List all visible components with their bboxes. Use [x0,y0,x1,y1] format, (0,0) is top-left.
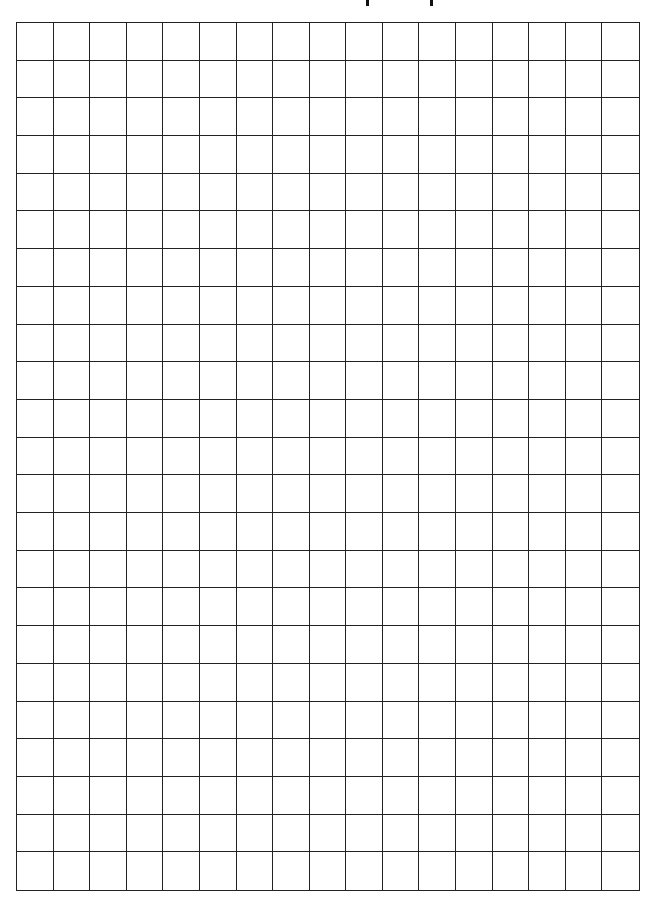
grid-cell [346,702,383,740]
grid-cell [273,287,310,325]
grid-cell [200,588,237,626]
grid-cell [419,513,456,551]
grid-cell [419,287,456,325]
grid-cell [529,777,566,815]
grid-cell [237,475,274,513]
grid-cell [200,702,237,740]
grid-cell [54,136,91,174]
grid-cell [346,852,383,890]
grid-cell [200,61,237,99]
grid-cell [602,287,639,325]
grid-cell [54,702,91,740]
grid-cell [456,400,493,438]
grid-cell [419,626,456,664]
grid-cell [602,136,639,174]
grid-cell [200,438,237,476]
grid-cell [456,438,493,476]
grid-cell [237,249,274,287]
grid-cell [273,211,310,249]
grid-cell [17,626,54,664]
grid-cell [419,815,456,853]
grid-cell [273,174,310,212]
grid-cell [90,777,127,815]
grid-cell [163,174,200,212]
grid-cell [493,136,530,174]
grid-cell [90,438,127,476]
grid-cell [566,513,603,551]
grid-cell [493,551,530,589]
grid-cell [273,551,310,589]
grid-cell [163,551,200,589]
grid-cell [419,174,456,212]
grid-cell [127,588,164,626]
grid-cell [566,400,603,438]
grid-cell [127,61,164,99]
grid-cell [17,98,54,136]
grid-cell [200,249,237,287]
grid-cell [310,852,347,890]
grid-cell [273,98,310,136]
grid-cell [54,287,91,325]
grid-cell [54,815,91,853]
grid-cell [17,325,54,363]
grid-cell [456,475,493,513]
grid-cell [273,815,310,853]
grid-cell [419,325,456,363]
grid-cell [456,588,493,626]
grid-cell [602,438,639,476]
grid-cell [127,815,164,853]
grid-cell [17,588,54,626]
grid-cell [273,475,310,513]
grid-cell [419,739,456,777]
grid-cell [17,23,54,61]
grid-cell [54,174,91,212]
grid-cell [54,362,91,400]
grid-cell [127,325,164,363]
grid-cell [602,400,639,438]
grid-cell [419,551,456,589]
grid-cell [602,249,639,287]
grid-cell [383,702,420,740]
grid-cell [54,777,91,815]
grid-cell [17,61,54,99]
grid-cell [383,325,420,363]
grid-cell [163,287,200,325]
grid-cell [383,174,420,212]
grid-cell [17,249,54,287]
grid-cell [456,362,493,400]
grid-cell [54,475,91,513]
grid-cell [493,664,530,702]
grid-cell [127,287,164,325]
grid-cell [529,438,566,476]
grid-cell [237,61,274,99]
grid-cell [17,211,54,249]
grid-cell [566,287,603,325]
grid-cell [493,626,530,664]
grid-cell [90,551,127,589]
grid-cell [419,777,456,815]
grid-cell [273,362,310,400]
grid-cell [127,739,164,777]
grid-cell [456,23,493,61]
grid-cell [419,438,456,476]
grid-cell [566,174,603,212]
grid-cell [493,211,530,249]
grid-cell [310,136,347,174]
grid-cell [383,664,420,702]
grid-cell [90,325,127,363]
grid-cell [493,174,530,212]
grid-cell [310,777,347,815]
grid-cell [419,852,456,890]
grid-cell [346,98,383,136]
grid-cell [127,702,164,740]
grid-cell [529,475,566,513]
grid-cell [310,702,347,740]
grid-cell [237,362,274,400]
grid-cell [529,513,566,551]
grid-cell [456,777,493,815]
grid-cell [602,551,639,589]
grid-cell [17,475,54,513]
grid-cell [602,702,639,740]
grid-cell [383,136,420,174]
grid-cell [383,551,420,589]
